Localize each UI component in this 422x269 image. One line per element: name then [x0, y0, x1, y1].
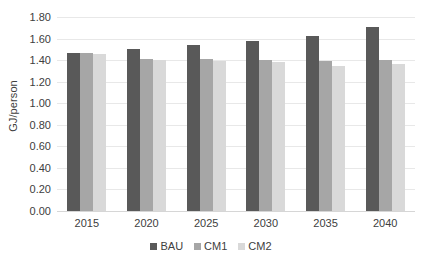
bar-cm2-2025: [213, 61, 226, 211]
bar-cm2-2040: [392, 64, 405, 211]
legend-item-cm2[interactable]: CM2: [238, 241, 271, 252]
legend-swatch-icon: [194, 243, 201, 250]
legend-label: CM2: [248, 241, 271, 252]
bar-groups: [57, 17, 415, 211]
bar-bau-2030: [246, 41, 259, 211]
chart-legend: BAUCM1CM2: [0, 241, 422, 252]
y-axis-tick-label: 1.60: [17, 33, 51, 45]
y-axis-tick-label: 1.80: [17, 11, 51, 23]
y-axis-tick-label: 0.80: [17, 119, 51, 131]
legend-swatch-icon: [238, 243, 245, 250]
x-axis-tick-label: 2020: [117, 214, 177, 234]
bar-cm1-2040: [379, 60, 392, 211]
y-axis-tick-label: 1.00: [17, 97, 51, 109]
bar-cm1-2025: [200, 59, 213, 211]
y-axis-tick-label: 1.20: [17, 76, 51, 88]
bar-bau-2015: [67, 53, 80, 211]
bar-bau-2035: [306, 36, 319, 211]
bar-cm1-2020: [140, 59, 153, 211]
x-axis-tick-label: 2030: [236, 214, 296, 234]
bar-cm2-2015: [93, 54, 106, 211]
bar-cm2-2030: [272, 62, 285, 211]
bar-group: [355, 17, 415, 211]
bar-chart: GJ/person 0.000.200.400.600.801.001.201.…: [0, 0, 422, 269]
bar-cm1-2035: [319, 61, 332, 211]
bar-group: [236, 17, 296, 211]
x-axis-tick-label: 2025: [176, 214, 236, 234]
bar-group: [57, 17, 117, 211]
x-axis-tick-labels: 201520202025203020352040: [57, 214, 415, 234]
y-axis-tick-label: 0.60: [17, 140, 51, 152]
legend-item-cm1[interactable]: CM1: [194, 241, 227, 252]
x-axis-tick-label: 2040: [355, 214, 415, 234]
plot-area: [57, 17, 415, 211]
bar-bau-2020: [127, 49, 140, 211]
y-axis-tick-label: 1.40: [17, 54, 51, 66]
axis-baseline: [57, 211, 415, 212]
bar-group: [296, 17, 356, 211]
bar-cm1-2015: [80, 53, 93, 211]
legend-item-bau[interactable]: BAU: [150, 241, 183, 252]
bar-bau-2040: [366, 27, 379, 211]
bar-bau-2025: [187, 45, 200, 211]
y-axis-tick-label: 0.20: [17, 183, 51, 195]
legend-label: CM1: [204, 241, 227, 252]
bar-group: [176, 17, 236, 211]
bar-cm2-2020: [153, 60, 166, 211]
bar-cm2-2035: [332, 66, 345, 212]
bar-cm1-2030: [259, 60, 272, 211]
y-axis-tick-label: 0.00: [17, 205, 51, 217]
bar-group: [117, 17, 177, 211]
y-axis-tick-label: 0.40: [17, 162, 51, 174]
x-axis-tick-label: 2015: [57, 214, 117, 234]
legend-swatch-icon: [150, 243, 157, 250]
x-axis-tick-label: 2035: [296, 214, 356, 234]
legend-label: BAU: [160, 241, 183, 252]
